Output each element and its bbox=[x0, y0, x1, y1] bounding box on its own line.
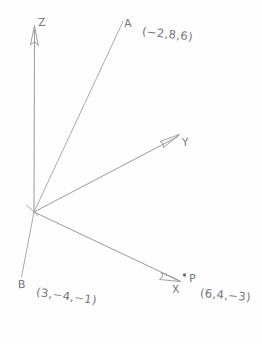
y-axis bbox=[34, 135, 180, 213]
ray-to-b bbox=[22, 212, 35, 277]
x-axis bbox=[34, 212, 181, 282]
point-b-label: B bbox=[18, 278, 26, 291]
point-p-marker bbox=[183, 273, 186, 276]
z-axis-label: Z bbox=[38, 16, 47, 30]
x-axis-label: X bbox=[171, 283, 180, 297]
coordinate-axes-diagram: Z Y X A (−2,8,6) B (3,−4,−1) P (6,4,−3) bbox=[0, 0, 262, 344]
point-a-label: A bbox=[124, 17, 132, 30]
ray-to-a bbox=[34, 22, 123, 213]
y-axis-label: Y bbox=[182, 136, 189, 149]
z-axis bbox=[30, 26, 38, 213]
point-p-label: P bbox=[189, 272, 197, 285]
